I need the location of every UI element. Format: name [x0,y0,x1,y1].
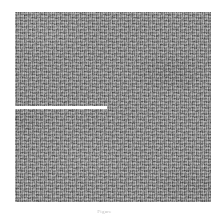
figure-caption: Figure [0,208,223,215]
speckle-image-panel [15,12,211,202]
figure-container: Figure [0,0,223,222]
caption-label: Figure [97,209,111,214]
scale-bar [15,106,107,109]
